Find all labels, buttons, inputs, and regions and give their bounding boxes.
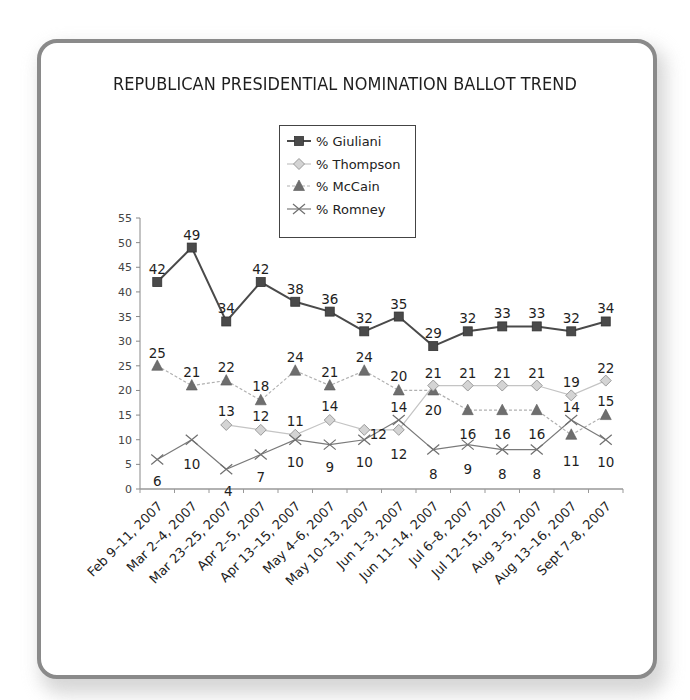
triangle-marker (324, 380, 335, 391)
data-label: 42 (252, 261, 269, 277)
data-label: 11 (563, 453, 580, 469)
data-label: 21 (528, 365, 545, 381)
data-label: 16 (494, 426, 511, 442)
data-labels: 4249344238363235293233333234131211141212… (149, 227, 615, 500)
data-label: 12 (390, 446, 407, 462)
triangle-marker (221, 375, 232, 386)
data-label: 14 (563, 399, 580, 415)
diamond-marker (393, 424, 404, 435)
square-marker (295, 137, 304, 146)
square-marker (498, 322, 507, 331)
data-label: 14 (390, 399, 407, 415)
series-giuliani (153, 243, 611, 351)
triangle-marker (531, 404, 542, 415)
data-label: 16 (459, 426, 476, 442)
data-label: 9 (463, 461, 472, 477)
y-tick-label: 40 (118, 286, 132, 299)
data-label: 20 (390, 368, 407, 384)
data-label: 20 (425, 402, 442, 418)
square-marker (222, 317, 231, 326)
square-marker (463, 327, 472, 336)
y-tick-label: 20 (118, 384, 132, 397)
data-label: 21 (425, 365, 442, 381)
legend-label: % McCain (316, 179, 380, 194)
data-label: 35 (390, 296, 407, 312)
diamond-marker (255, 424, 266, 435)
data-label: 4 (224, 483, 233, 499)
data-label: 6 (153, 473, 162, 489)
data-label: 10 (597, 454, 614, 470)
data-label: 12 (370, 426, 387, 442)
data-label: 7 (256, 469, 265, 485)
data-label: 29 (425, 325, 442, 341)
x-marker (151, 454, 163, 464)
data-label: 16 (528, 426, 545, 442)
y-tick-label: 0 (125, 483, 132, 496)
triangle-marker (393, 384, 404, 395)
x-marker (255, 450, 267, 460)
triangle-marker (186, 380, 197, 391)
diamond-marker (531, 380, 542, 391)
x-axis-labels: Feb 9–11, 2007Mar 2–4, 2007Mar 23–25, 20… (84, 499, 614, 589)
data-label: 22 (218, 359, 235, 375)
data-label: 19 (563, 374, 580, 390)
diamond-marker (497, 380, 508, 391)
data-label: 32 (459, 310, 476, 326)
data-label: 10 (356, 454, 373, 470)
data-label: 8 (532, 466, 541, 482)
square-marker (601, 317, 610, 326)
x-marker (565, 415, 577, 425)
data-label: 21 (494, 365, 511, 381)
y-tick-label: 10 (118, 434, 132, 447)
x-marker (186, 435, 198, 445)
x-marker (600, 435, 612, 445)
diamond-marker (290, 429, 301, 440)
data-label: 25 (149, 345, 166, 361)
data-label: 22 (597, 360, 614, 376)
square-marker (429, 342, 438, 351)
data-label: 24 (356, 349, 373, 365)
data-label: 15 (597, 393, 614, 409)
square-marker (567, 327, 576, 336)
data-label: 21 (459, 365, 476, 381)
data-label: 8 (429, 466, 438, 482)
data-label: 21 (183, 364, 200, 380)
square-marker (360, 327, 369, 336)
y-tick-label: 5 (125, 458, 132, 471)
diamond-marker (324, 415, 335, 426)
data-label: 9 (325, 459, 334, 475)
data-label: 33 (494, 305, 511, 321)
data-label: 8 (498, 466, 507, 482)
data-label: 11 (287, 413, 304, 429)
data-label: 10 (183, 456, 200, 472)
triangle-marker (566, 429, 577, 440)
y-tick-label: 35 (118, 311, 132, 324)
legend-label: % Romney (316, 202, 386, 217)
data-label: 49 (183, 227, 200, 243)
triangle-marker (152, 360, 163, 371)
x-marker (220, 464, 232, 474)
square-marker (291, 297, 300, 306)
triangle-marker (290, 365, 301, 376)
data-label: 34 (218, 300, 235, 316)
diamond-marker (359, 424, 370, 435)
data-label: 32 (356, 310, 373, 326)
y-tick-label: 25 (118, 360, 132, 373)
data-label: 33 (528, 305, 545, 321)
triangle-marker (497, 404, 508, 415)
triangle-marker (359, 365, 370, 376)
diamond-marker (600, 375, 611, 386)
square-marker (256, 278, 265, 287)
triangle-marker (600, 409, 611, 420)
data-label: 24 (287, 349, 304, 365)
triangle-marker (462, 404, 473, 415)
square-marker (532, 322, 541, 331)
data-label: 14 (321, 398, 338, 414)
data-label: 34 (597, 300, 614, 316)
y-tick-label: 15 (118, 409, 132, 422)
y-tick-label: 30 (118, 335, 132, 348)
triangle-marker (255, 394, 266, 405)
diamond-marker (221, 419, 232, 430)
data-label: 21 (321, 364, 338, 380)
y-tick-label: 50 (118, 237, 132, 250)
